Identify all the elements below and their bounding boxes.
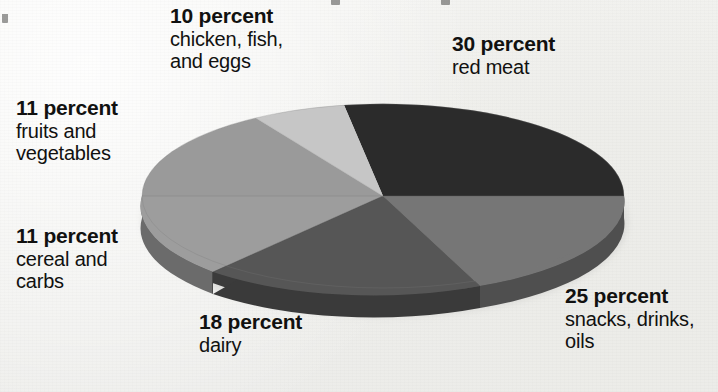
- slice-description-dairy: dairy: [199, 334, 302, 357]
- slice-description-fruits-and-vegetables-line2: vegetables: [16, 142, 118, 165]
- slice-percent-red-meat: 30 percent: [452, 32, 555, 56]
- pie-top-face: [141, 104, 625, 296]
- slice-description-fruits-and-vegetables-line1: fruits and: [16, 120, 118, 143]
- slice-percent-chicken-fish-eggs: 10 percent: [170, 4, 283, 28]
- slice-description-snacks-drinks-oils-line1: snacks, drinks,: [565, 308, 694, 331]
- slice-description-snacks-drinks-oils-line2: oils: [565, 330, 694, 353]
- slice-percent-cereal-and-carbs: 11 percent: [16, 224, 118, 248]
- slice-description-red-meat: red meat: [452, 56, 555, 79]
- pie-chart-figure: 10 percent chicken, fish, and eggs 30 pe…: [0, 0, 718, 392]
- slice-label-snacks-drinks-oils: 25 percent snacks, drinks, oils: [565, 284, 694, 353]
- slice-percent-snacks-drinks-oils: 25 percent: [565, 284, 694, 308]
- slice-description-chicken-fish-eggs-line2: and eggs: [170, 50, 283, 73]
- slice-label-chicken-fish-eggs: 10 percent chicken, fish, and eggs: [170, 4, 283, 73]
- slice-description-cereal-and-carbs-line1: cereal and: [16, 248, 118, 271]
- clipped-title-remnant: [331, 0, 340, 5]
- slice-label-fruits-and-vegetables: 11 percent fruits and vegetables: [16, 96, 118, 165]
- slice-description-chicken-fish-eggs-line1: chicken, fish,: [170, 28, 283, 51]
- slice-description-cereal-and-carbs-line2: carbs: [16, 270, 118, 293]
- clipped-title-remnant: [441, 0, 450, 5]
- slice-label-cereal-and-carbs: 11 percent cereal and carbs: [16, 224, 118, 293]
- slice-percent-dairy: 18 percent: [199, 310, 302, 334]
- slice-percent-fruits-and-vegetables: 11 percent: [16, 96, 118, 120]
- slice-label-red-meat: 30 percent red meat: [452, 32, 555, 78]
- slice-label-dairy: 18 percent dairy: [199, 310, 302, 356]
- clipped-title-remnant: [2, 14, 8, 23]
- pie-slice-red-meat: [344, 104, 624, 196]
